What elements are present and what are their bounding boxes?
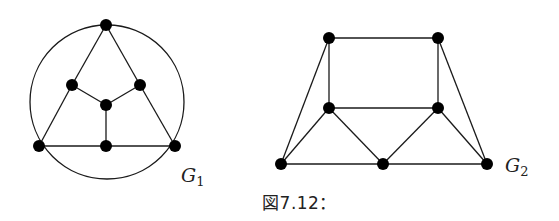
graph-vertex — [432, 102, 444, 114]
graph-edge — [438, 38, 487, 164]
graph-edge — [72, 25, 106, 85]
graph-edge — [281, 108, 329, 164]
graph-g2: G2 — [275, 32, 528, 179]
graph-vertex — [275, 158, 287, 170]
graph-vertex — [100, 140, 112, 152]
graph-vertex — [323, 102, 335, 114]
graph-vertex — [323, 32, 335, 44]
graph-vertex — [134, 79, 146, 91]
graph-vertex — [100, 99, 112, 111]
graph-vertex — [169, 140, 181, 152]
graph-vertex — [66, 79, 78, 91]
graph-label: G2 — [505, 154, 528, 179]
graph-edge — [438, 108, 487, 164]
graph-vertex — [432, 32, 444, 44]
graph-edge — [329, 108, 383, 164]
graph-figure: G1 G2 — [0, 0, 559, 221]
graph-g1: G1 — [30, 19, 204, 189]
figure-caption: 図7.12： — [0, 189, 559, 214]
graph-vertex — [33, 140, 45, 152]
graph-vertex — [481, 158, 493, 170]
graph-label: G1 — [181, 164, 204, 189]
graph-vertex — [100, 19, 112, 31]
graph-vertex — [377, 158, 389, 170]
graph-edge — [39, 85, 72, 146]
graph-edge — [140, 85, 175, 146]
graph-edge — [106, 25, 140, 85]
graph-edge — [383, 108, 438, 164]
graph-edge — [281, 38, 329, 164]
